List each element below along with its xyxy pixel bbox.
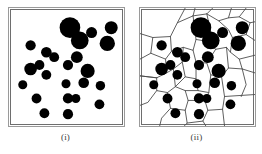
- dot: [100, 36, 115, 51]
- dot: [32, 94, 42, 104]
- dot: [86, 27, 97, 38]
- dot: [236, 21, 249, 34]
- dot: [194, 60, 204, 70]
- cell-edge: [140, 76, 157, 78]
- cell-edge: [171, 16, 196, 51]
- panel-i-frame: [8, 7, 125, 127]
- dot: [172, 70, 182, 80]
- dot: [71, 51, 83, 63]
- dot: [166, 60, 176, 70]
- dot: [63, 60, 73, 70]
- dot: [170, 108, 180, 118]
- dot: [105, 21, 118, 34]
- cell-edge: [177, 8, 195, 23]
- panel-i: (i): [0, 0, 131, 154]
- dot: [49, 52, 59, 62]
- dot: [194, 109, 204, 119]
- dot: [226, 99, 236, 109]
- dot: [209, 77, 220, 88]
- dot: [71, 32, 89, 50]
- cell-edge: [140, 38, 153, 60]
- dot: [95, 99, 105, 109]
- dot: [202, 32, 220, 50]
- dot: [149, 80, 158, 89]
- dot: [39, 108, 49, 118]
- panel-ii: (ii): [131, 0, 262, 154]
- cell-edge: [223, 109, 225, 126]
- panel-ii-frame: [139, 7, 256, 127]
- dot: [227, 81, 236, 90]
- panel-i-point-pattern: [9, 8, 124, 126]
- dot: [61, 79, 70, 88]
- cell-edge: [193, 8, 213, 16]
- dot: [163, 94, 173, 104]
- dot: [231, 36, 246, 51]
- panel-i-caption: (i): [0, 131, 131, 143]
- dot: [26, 40, 36, 50]
- panel-ii-voronoi-diagram: [140, 8, 255, 126]
- cell-edge: [239, 59, 242, 69]
- figure-container: (i): [0, 0, 262, 154]
- dot: [18, 80, 27, 89]
- dot: [202, 94, 211, 103]
- cell-edge: [184, 110, 187, 126]
- dot: [212, 64, 226, 78]
- dot: [202, 51, 214, 63]
- dot: [78, 77, 89, 88]
- cell-edge: [203, 121, 206, 126]
- cell-edge: [140, 91, 157, 106]
- dot: [81, 64, 95, 78]
- dot: [96, 81, 105, 90]
- dot: [180, 52, 190, 62]
- dot: [41, 70, 51, 80]
- cell-edge: [241, 69, 246, 97]
- dot-group-i: [18, 17, 117, 119]
- dot: [192, 79, 201, 88]
- dot: [157, 40, 167, 50]
- dot: [71, 94, 80, 103]
- cell-edge: [225, 95, 255, 97]
- panel-ii-caption: (ii): [131, 131, 262, 143]
- dot: [217, 27, 228, 38]
- dot: [63, 109, 73, 119]
- dot: [35, 60, 45, 70]
